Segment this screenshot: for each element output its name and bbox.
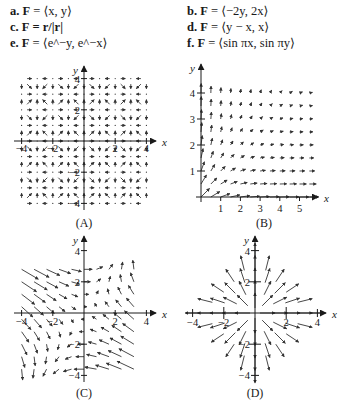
svg-text:−4: −4	[16, 316, 28, 327]
svg-text:−4: −4	[69, 198, 81, 209]
svg-text:2: 2	[113, 143, 118, 154]
plot-d-caption: (D)	[247, 386, 264, 401]
svg-text:−4: −4	[16, 143, 28, 154]
svg-text:x: x	[161, 308, 167, 320]
plot-c-caption: (C)	[76, 386, 92, 401]
svg-text:2: 2	[190, 140, 195, 151]
svg-text:2: 2	[113, 316, 118, 327]
svg-text:4: 4	[277, 203, 283, 214]
svg-text:−2: −2	[69, 339, 80, 350]
svg-text:−2: −2	[239, 339, 250, 350]
svg-text:y: y	[189, 62, 195, 74]
svg-text:3: 3	[257, 203, 262, 214]
svg-text:−4: −4	[69, 370, 81, 381]
svg-text:3: 3	[190, 114, 195, 125]
svg-text:x: x	[331, 308, 337, 320]
plot-a-caption: (A)	[76, 216, 93, 231]
svg-text:2: 2	[75, 277, 80, 288]
svg-text:2: 2	[75, 105, 80, 116]
svg-text:−2: −2	[47, 143, 58, 154]
plot-b-caption: (B)	[256, 216, 272, 231]
svg-text:−2: −2	[47, 316, 58, 327]
svg-text:1: 1	[190, 166, 195, 177]
svg-text:x: x	[161, 136, 167, 148]
svg-text:−4: −4	[239, 370, 251, 381]
plot-d: xy−4−22442−2−4	[185, 234, 337, 383]
svg-text:4: 4	[190, 88, 196, 99]
svg-text:2: 2	[284, 317, 289, 328]
plot-b: xy123451234	[189, 62, 329, 214]
svg-text:5: 5	[297, 203, 302, 214]
svg-text:x: x	[323, 192, 329, 204]
svg-text:2: 2	[238, 203, 243, 214]
svg-text:4: 4	[144, 316, 150, 327]
svg-text:1: 1	[218, 203, 223, 214]
svg-text:y: y	[243, 234, 249, 246]
svg-text:−2: −2	[69, 167, 80, 178]
svg-text:y: y	[72, 234, 78, 246]
svg-text:−4: −4	[187, 317, 199, 328]
plot-a: xy−4−22442−2−4	[14, 64, 167, 210]
vector-field-plots: xy−4−22442−2−4 xy123451234 xy−4−22442−2−…	[0, 0, 338, 402]
svg-text:2: 2	[245, 277, 250, 288]
svg-text:4: 4	[75, 74, 81, 85]
svg-text:4: 4	[315, 317, 321, 328]
plot-c: xy−4−22442−2−4	[14, 234, 167, 382]
svg-text:−2: −2	[218, 317, 229, 328]
svg-text:4: 4	[75, 246, 81, 257]
svg-text:4: 4	[245, 246, 251, 257]
svg-text:4: 4	[144, 143, 150, 154]
